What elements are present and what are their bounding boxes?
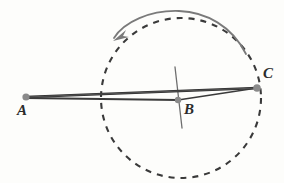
point-dot-b (175, 97, 181, 103)
point-dot-a (22, 93, 29, 100)
point-dot-c (253, 84, 261, 92)
point-label-b: B (184, 102, 194, 117)
geometry-diagram: A B C (0, 0, 284, 183)
point-label-a: A (17, 103, 27, 118)
point-label-c: C (263, 66, 273, 81)
dashed-rotation-circle (101, 18, 261, 178)
diagram-canvas (0, 0, 284, 183)
segment-a-through-b (26, 98, 178, 100)
